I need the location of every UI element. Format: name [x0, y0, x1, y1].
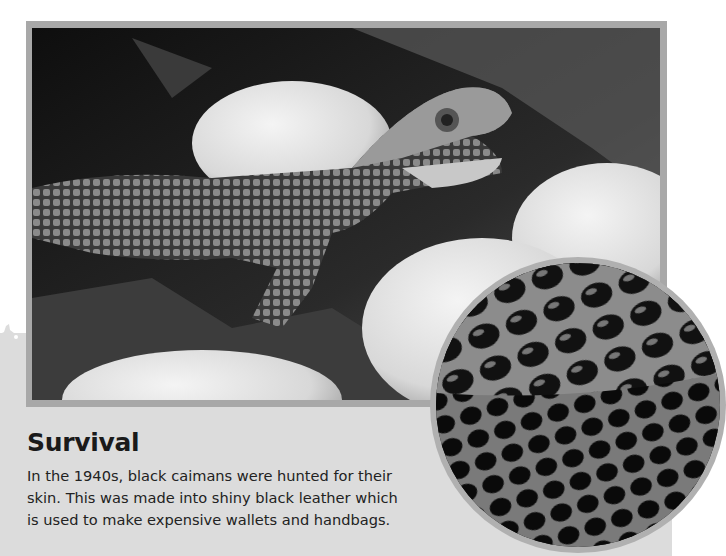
- section-heading: Survival: [27, 428, 139, 457]
- inset-photo: [436, 263, 720, 547]
- caiman-skin-image: [436, 263, 720, 547]
- caption-line: In the 1940s, black caimans were hunted …: [27, 465, 427, 487]
- caption-line: skin. This was made into shiny black lea…: [27, 487, 427, 509]
- caption-text: In the 1940s, black caimans were hunted …: [27, 465, 427, 531]
- inset-photo-frame: [430, 257, 726, 553]
- caption-line: is used to make expensive wallets and ha…: [27, 509, 427, 531]
